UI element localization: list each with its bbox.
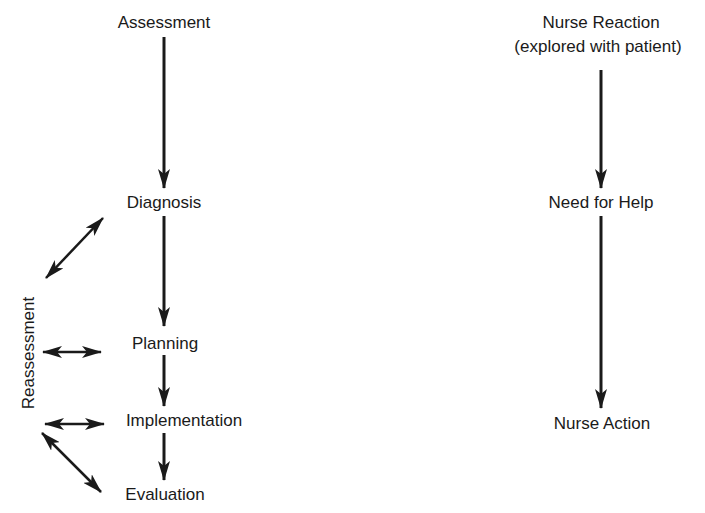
node-nurse-reaction-sublabel: (explored with patient): [514, 38, 681, 55]
node-diagnosis: Diagnosis: [127, 194, 202, 211]
node-nurse-action: Nurse Action: [554, 415, 650, 432]
node-evaluation: Evaluation: [125, 486, 204, 503]
node-assessment: Assessment: [118, 14, 211, 31]
diagram-arrows: [0, 0, 705, 513]
double-arrow-reassessment-diagnosis: [46, 218, 103, 278]
node-need-for-help: Need for Help: [549, 194, 654, 211]
node-nurse-reaction: Nurse Reaction: [542, 14, 659, 31]
reassessment-label: Reassessment: [20, 297, 37, 409]
node-planning: Planning: [132, 335, 198, 352]
double-arrow-reassessment-evaluation: [42, 433, 101, 492]
node-implementation: Implementation: [126, 412, 242, 429]
